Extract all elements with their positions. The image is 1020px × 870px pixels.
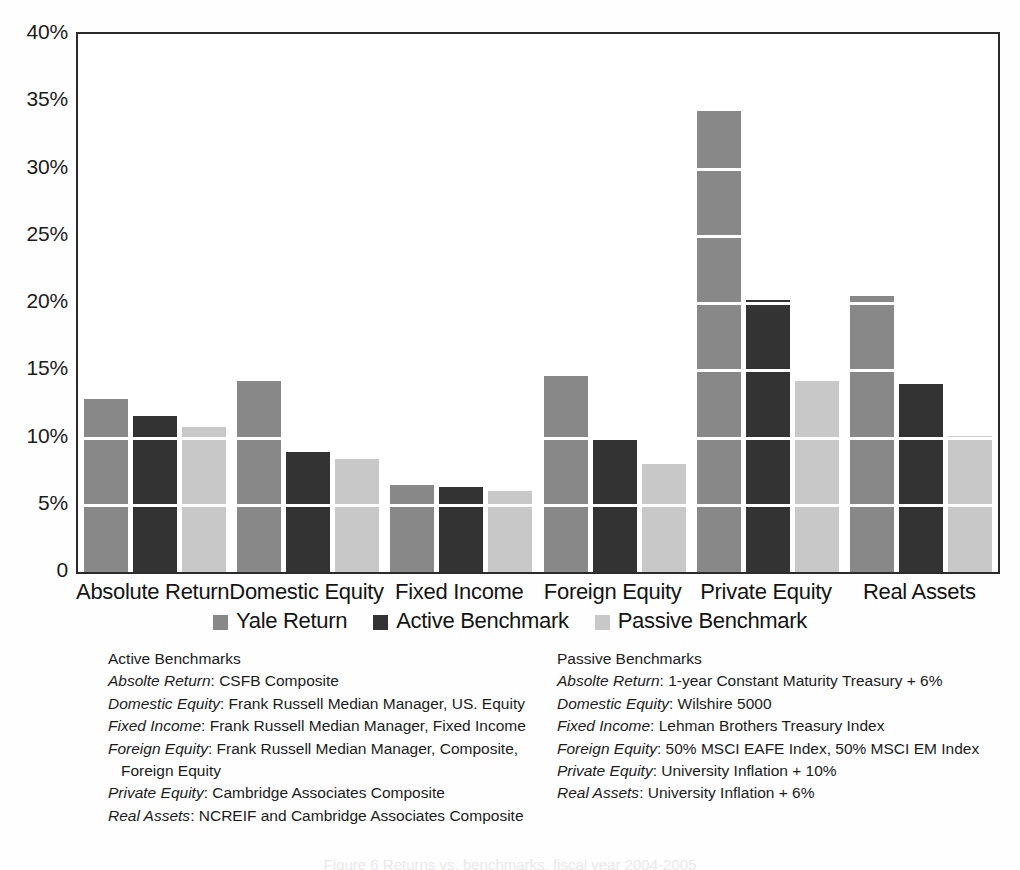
legend-item-yale-return[interactable]: Yale Return — [213, 608, 347, 634]
benchmark-note-category: Private Equity — [108, 784, 204, 801]
benchmark-note-text: : Frank Russell Median Manager, Composit… — [208, 740, 518, 757]
benchmark-note-text: : NCREIF and Cambridge Associates Compos… — [190, 807, 523, 824]
y-tick-label: 30% — [4, 155, 68, 179]
gridline — [78, 504, 998, 507]
active-benchmarks-heading: Active Benchmarks — [108, 648, 558, 670]
benchmark-note-row: Absolte Return: 1-year Constant Maturity… — [557, 670, 1007, 692]
y-tick-label: 0 — [4, 558, 68, 582]
legend-label: Yale Return — [236, 608, 347, 634]
plot-canvas — [78, 34, 998, 572]
bar-foreign-equity-yale-return — [544, 376, 588, 572]
benchmark-note-text: : Frank Russell Median Manager, US. Equi… — [220, 695, 525, 712]
benchmark-note-continuation: Foreign Equity — [108, 760, 558, 782]
gridline — [78, 369, 998, 372]
benchmark-notes: Active Benchmarks Absolte Return: CSFB C… — [0, 648, 1020, 848]
benchmark-note-row: Foreign Equity: Frank Russell Median Man… — [108, 738, 558, 760]
y-tick-label: 40% — [4, 20, 68, 44]
bar-foreign-equity-passive-benchmark — [642, 464, 686, 572]
benchmark-note-row: Real Assets: NCREIF and Cambridge Associ… — [108, 805, 558, 827]
benchmark-note-text: : Lehman Brothers Treasury Index — [650, 717, 884, 734]
benchmark-note-category: Absolte Return — [557, 672, 660, 689]
bar-fixed-income-yale-return — [390, 485, 434, 572]
passive-benchmarks-heading: Passive Benchmarks — [557, 648, 1007, 670]
bar-domestic-equity-passive-benchmark — [335, 459, 379, 572]
x-tick-label: Fixed Income — [383, 579, 536, 605]
y-tick-label: 20% — [4, 289, 68, 313]
benchmark-note-text: : University Inflation + 6% — [639, 784, 814, 801]
plot-frame — [76, 32, 1000, 574]
bar-domestic-equity-yale-return — [237, 381, 281, 572]
benchmark-note-row: Private Equity: Cambridge Associates Com… — [108, 782, 558, 804]
y-tick-label: 10% — [4, 424, 68, 448]
legend-label: Passive Benchmark — [618, 608, 807, 634]
benchmark-note-text: : Cambridge Associates Composite — [204, 784, 445, 801]
legend-swatch-icon — [595, 615, 610, 630]
benchmark-note-category: Real Assets — [108, 807, 190, 824]
benchmark-note-row: Domestic Equity: Wilshire 5000 — [557, 693, 1007, 715]
bar-fixed-income-active-benchmark — [439, 487, 483, 572]
gridline — [78, 235, 998, 238]
benchmark-note-row: Private Equity: University Inflation + 1… — [557, 760, 1007, 782]
gridline — [78, 100, 998, 103]
legend-item-passive-benchmark[interactable]: Passive Benchmark — [595, 608, 807, 634]
benchmark-note-category: Fixed Income — [557, 717, 650, 734]
benchmark-note-text: : University Inflation + 10% — [653, 762, 837, 779]
benchmark-note-category: Absolte Return — [108, 672, 211, 689]
benchmark-note-row: Domestic Equity: Frank Russell Median Ma… — [108, 693, 558, 715]
bar-private-equity-passive-benchmark — [795, 381, 839, 572]
benchmark-note-category: Domestic Equity — [557, 695, 669, 712]
bar-real-assets-yale-return — [850, 296, 894, 572]
benchmark-note-category: Foreign Equity — [557, 740, 657, 757]
x-tick-label: Real Assets — [843, 579, 996, 605]
x-tick-label: Domestic Equity — [229, 579, 382, 605]
benchmark-note-text: : 50% MSCI EAFE Index, 50% MSCI EM Index — [657, 740, 979, 757]
benchmark-note-text: : Wilshire 5000 — [669, 695, 772, 712]
legend-label: Active Benchmark — [396, 608, 569, 634]
x-tick-label: Foreign Equity — [536, 579, 689, 605]
benchmark-note-text: : Frank Russell Median Manager, Fixed In… — [201, 717, 526, 734]
active-benchmarks-rows: Absolte Return: CSFB CompositeDomestic E… — [108, 670, 558, 827]
chart-legend: Yale ReturnActive BenchmarkPassive Bench… — [0, 608, 1020, 634]
benchmark-note-row: Real Assets: University Inflation + 6% — [557, 782, 1007, 804]
passive-benchmarks-rows: Absolte Return: 1-year Constant Maturity… — [557, 670, 1007, 804]
passive-benchmarks-column: Passive Benchmarks Absolte Return: 1-yea… — [557, 648, 1007, 805]
figure-caption: Figure 6 Returns vs. benchmarks, fiscal … — [0, 856, 1020, 870]
legend-item-active-benchmark[interactable]: Active Benchmark — [373, 608, 569, 634]
benchmark-note-category: Foreign Equity — [108, 740, 208, 757]
bar-domestic-equity-active-benchmark — [286, 452, 330, 572]
benchmark-note-row: Absolte Return: CSFB Composite — [108, 670, 558, 692]
bar-real-assets-active-benchmark — [899, 384, 943, 572]
x-tick-label: Absolute Return — [76, 579, 229, 605]
gridline — [78, 302, 998, 305]
active-benchmarks-column: Active Benchmarks Absolte Return: CSFB C… — [108, 648, 558, 827]
y-tick-label: 35% — [4, 87, 68, 111]
bar-absolute-return-passive-benchmark — [182, 427, 226, 572]
y-tick-label: 15% — [4, 356, 68, 380]
benchmark-note-category: Private Equity — [557, 762, 653, 779]
chart-page: 40%35%30%25%20%15%10%5%0 Absolute Return… — [0, 0, 1020, 870]
benchmark-note-row: Fixed Income: Frank Russell Median Manag… — [108, 715, 558, 737]
benchmark-note-category: Domestic Equity — [108, 695, 220, 712]
benchmark-note-text: : 1-year Constant Maturity Treasury + 6% — [660, 672, 943, 689]
benchmark-note-text: : CSFB Composite — [211, 672, 339, 689]
bar-absolute-return-yale-return — [84, 399, 128, 573]
legend-swatch-icon — [213, 615, 228, 630]
x-tick-label: Private Equity — [689, 579, 842, 605]
benchmark-note-row: Foreign Equity: 50% MSCI EAFE Index, 50%… — [557, 738, 1007, 760]
legend-swatch-icon — [373, 615, 388, 630]
benchmark-note-row: Fixed Income: Lehman Brothers Treasury I… — [557, 715, 1007, 737]
benchmark-note-category: Real Assets — [557, 784, 639, 801]
benchmark-note-category: Fixed Income — [108, 717, 201, 734]
gridline — [78, 437, 998, 440]
gridline — [78, 168, 998, 171]
y-tick-label: 25% — [4, 222, 68, 246]
y-tick-label: 5% — [4, 491, 68, 515]
